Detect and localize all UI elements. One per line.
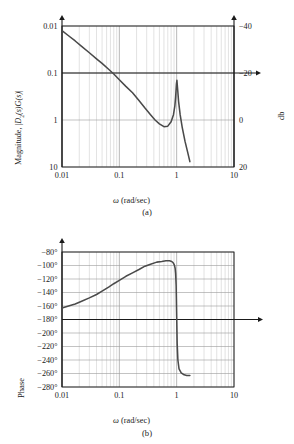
y-tick-labels-right: 200−20−40 [239,22,252,172]
y-tick-label: −140° [37,288,57,297]
y-tick-label: −160° [37,302,57,311]
y-tick-label: 0.01 [43,22,57,31]
phase-plot-canvas: 0.010.1110−80°−100°−120°−140°−160°−180°−… [0,222,294,444]
magnitude-y-axis-label: Magnitude, |D2(s)G(s)| [14,90,25,165]
x-tick-label: 0.1 [114,391,124,400]
y-tick-label-right: 20 [239,163,247,172]
x-tick-labels: 0.010.1110 [55,171,238,180]
y-tick-label: −120° [37,275,57,284]
figure-magnitude-bode: 0.010.11101010.10.01200−20−40 Magnitude,… [0,0,294,222]
y-tick-label: 1 [53,116,57,125]
y-tick-label: −220° [37,342,57,351]
axis-arrows [59,15,237,167]
x-tick-label: 10 [230,171,238,180]
magnitude-plot-canvas: 0.010.11101010.10.01200−20−40 [0,0,294,222]
y-tick-labels: −80°−100°−120°−140°−160°−180°−200°−220°−… [37,248,57,392]
plot-frame [62,26,234,167]
y-tick-label-right: −20 [239,69,252,78]
y-tick-label: −80° [41,248,57,257]
y-tick-label: −280° [37,383,57,392]
data-curve-0 [62,31,190,162]
x-tick-labels: 0.010.1110 [55,391,238,400]
x-tick-label: 0.1 [114,171,124,180]
y-tick-label: 0.1 [47,69,57,78]
magnitude-right-axis-label: db [277,112,286,120]
phase-y-axis-label: Phase [16,378,26,398]
y-tick-label-right: 0 [239,116,243,125]
phase-x-axis-label: ω (rad/sec) [113,416,150,425]
y-tick-label-right: −40 [239,22,252,31]
y-tick-labels: 1010.10.01 [43,22,57,172]
gridlines [62,26,234,167]
y-tick-label: −240° [37,356,57,365]
y-tick-label: −260° [37,369,57,378]
data-curve-0 [62,261,190,376]
figure-b-caption: (b) [0,428,294,438]
y-tick-label: −180° [37,315,57,324]
minus-180-reference-line [62,317,263,322]
axis-arrows [59,238,65,387]
x-tick-label: 1 [175,391,179,400]
y-tick-label: −200° [37,329,57,338]
x-tick-label: 10 [230,391,238,400]
y-tick-label: −100° [37,261,57,270]
x-tick-label: 1 [175,171,179,180]
figure-a-caption: (a) [0,207,294,217]
y-tick-label: 10 [49,163,57,172]
magnitude-x-axis-label: ω (rad/sec) [113,196,150,205]
figure-phase-bode: 0.010.1110−80°−100°−120°−140°−160°−180°−… [0,222,294,444]
